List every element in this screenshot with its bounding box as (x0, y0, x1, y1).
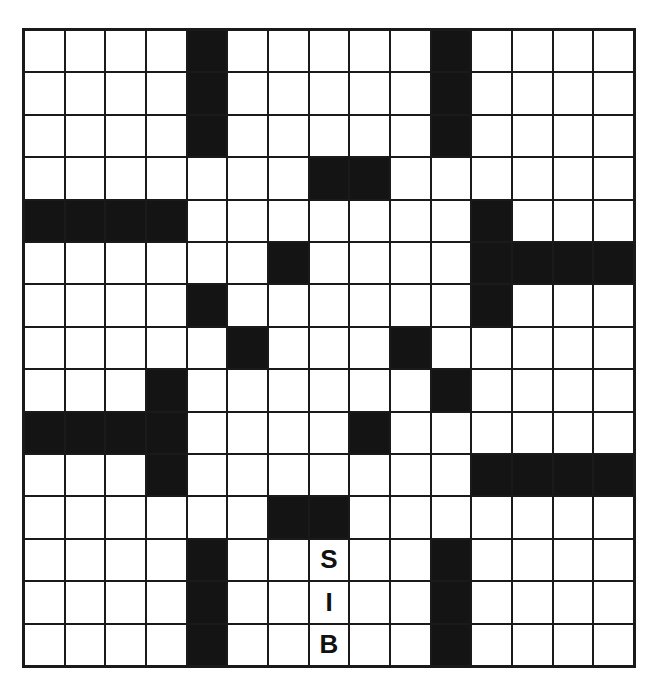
grid-cell[interactable] (432, 201, 471, 241)
grid-cell[interactable] (594, 413, 633, 453)
grid-cell[interactable] (106, 625, 145, 665)
grid-cell[interactable] (269, 285, 308, 325)
grid-cell[interactable] (228, 158, 267, 198)
grid-cell[interactable] (66, 625, 105, 665)
grid-cell[interactable] (391, 582, 430, 622)
grid-cell[interactable] (188, 243, 227, 283)
grid-cell[interactable] (269, 116, 308, 156)
grid-cell[interactable] (554, 158, 593, 198)
grid-cell[interactable] (391, 285, 430, 325)
grid-cell[interactable] (594, 540, 633, 580)
grid-cell[interactable] (513, 413, 552, 453)
grid-cell[interactable] (391, 455, 430, 495)
grid-cell[interactable] (554, 285, 593, 325)
grid-cell[interactable] (25, 243, 64, 283)
grid-cell[interactable]: B (310, 625, 349, 665)
grid-cell[interactable] (228, 413, 267, 453)
grid-cell[interactable] (310, 73, 349, 113)
grid-cell[interactable] (228, 31, 267, 71)
grid-cell[interactable] (66, 582, 105, 622)
grid-cell[interactable] (106, 116, 145, 156)
grid-cell[interactable] (310, 31, 349, 71)
grid-cell[interactable] (391, 540, 430, 580)
grid-cell[interactable] (350, 540, 389, 580)
grid-cell[interactable] (147, 116, 186, 156)
grid-cell[interactable] (188, 413, 227, 453)
grid-cell[interactable] (432, 285, 471, 325)
grid-cell[interactable] (391, 201, 430, 241)
grid-cell[interactable] (106, 158, 145, 198)
grid-cell[interactable] (350, 116, 389, 156)
grid-cell[interactable] (391, 625, 430, 665)
grid-cell[interactable] (147, 582, 186, 622)
grid-cell[interactable] (66, 243, 105, 283)
grid-cell[interactable] (472, 116, 511, 156)
grid-cell[interactable] (513, 73, 552, 113)
grid-cell[interactable] (25, 328, 64, 368)
grid-cell[interactable] (350, 201, 389, 241)
grid-cell[interactable] (106, 73, 145, 113)
grid-cell[interactable] (147, 73, 186, 113)
grid-cell[interactable] (513, 497, 552, 537)
grid-cell[interactable] (66, 116, 105, 156)
grid-cell[interactable] (350, 31, 389, 71)
grid-cell[interactable] (350, 285, 389, 325)
grid-cell[interactable] (350, 243, 389, 283)
grid-cell[interactable] (432, 158, 471, 198)
grid-cell[interactable] (106, 370, 145, 410)
grid-cell[interactable] (554, 582, 593, 622)
grid-cell[interactable] (554, 201, 593, 241)
grid-cell[interactable] (188, 201, 227, 241)
grid-cell[interactable] (228, 625, 267, 665)
grid-cell[interactable] (66, 73, 105, 113)
grid-cell[interactable] (228, 116, 267, 156)
grid-cell[interactable] (25, 73, 64, 113)
grid-cell[interactable] (269, 370, 308, 410)
grid-cell[interactable] (310, 370, 349, 410)
grid-cell[interactable] (594, 31, 633, 71)
grid-cell[interactable] (106, 455, 145, 495)
grid-cell[interactable] (269, 413, 308, 453)
grid-cell[interactable] (147, 497, 186, 537)
grid-cell[interactable] (554, 370, 593, 410)
grid-cell[interactable] (25, 625, 64, 665)
grid-cell[interactable] (66, 328, 105, 368)
grid-cell[interactable] (25, 497, 64, 537)
grid-cell[interactable] (66, 455, 105, 495)
grid-cell[interactable] (594, 116, 633, 156)
grid-cell[interactable] (147, 285, 186, 325)
grid-cell[interactable] (188, 370, 227, 410)
grid-cell[interactable] (269, 31, 308, 71)
grid-cell[interactable] (513, 116, 552, 156)
grid-cell[interactable] (147, 31, 186, 71)
grid-cell[interactable] (228, 73, 267, 113)
grid-cell[interactable] (472, 582, 511, 622)
grid-cell[interactable] (106, 31, 145, 71)
grid-cell[interactable] (350, 582, 389, 622)
grid-cell[interactable] (350, 73, 389, 113)
grid-cell[interactable] (269, 540, 308, 580)
grid-cell[interactable] (147, 625, 186, 665)
grid-cell[interactable] (391, 497, 430, 537)
grid-cell[interactable] (106, 540, 145, 580)
grid-cell[interactable] (66, 497, 105, 537)
grid-cell[interactable] (147, 540, 186, 580)
grid-cell[interactable] (188, 497, 227, 537)
grid-cell[interactable] (269, 455, 308, 495)
grid-cell[interactable] (594, 158, 633, 198)
grid-cell[interactable] (66, 285, 105, 325)
grid-cell[interactable] (513, 540, 552, 580)
grid-cell[interactable] (228, 201, 267, 241)
grid-cell[interactable] (554, 328, 593, 368)
grid-cell[interactable] (391, 73, 430, 113)
grid-cell[interactable] (513, 31, 552, 71)
grid-cell[interactable] (25, 31, 64, 71)
grid-cell[interactable] (513, 158, 552, 198)
grid-cell[interactable] (269, 625, 308, 665)
grid-cell[interactable] (472, 328, 511, 368)
grid-cell[interactable] (554, 540, 593, 580)
grid-cell[interactable] (594, 582, 633, 622)
grid-cell[interactable] (269, 582, 308, 622)
grid-cell[interactable] (513, 625, 552, 665)
grid-cell[interactable] (106, 328, 145, 368)
